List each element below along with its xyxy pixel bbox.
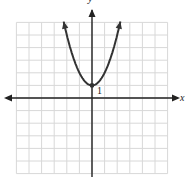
vertex-label: 1: [97, 86, 102, 96]
y-axis-label: y: [88, 0, 92, 4]
x-axis-label: x: [180, 93, 184, 103]
axes: [4, 9, 180, 177]
coordinate-plane: [0, 0, 187, 177]
vertex-point: [90, 83, 95, 88]
